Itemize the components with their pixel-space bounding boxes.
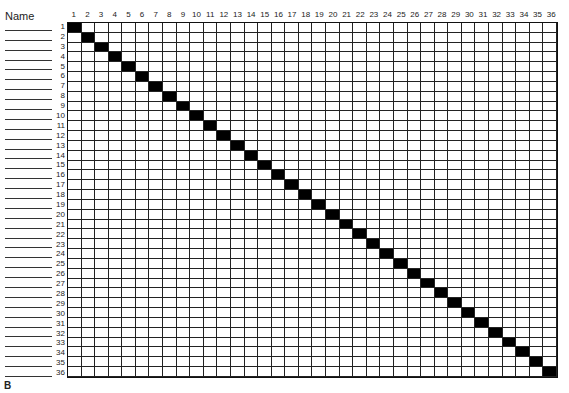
grid-cell[interactable] xyxy=(245,43,259,53)
grid-cell[interactable] xyxy=(462,111,476,121)
grid-cell[interactable] xyxy=(109,62,123,72)
grid-cell[interactable] xyxy=(163,239,177,249)
grid-cell[interactable] xyxy=(204,102,218,112)
grid-cell[interactable] xyxy=(408,33,422,43)
name-entry-line[interactable] xyxy=(5,238,52,239)
grid-cell[interactable] xyxy=(82,121,96,131)
grid-cell[interactable] xyxy=(543,308,557,318)
name-entry-line[interactable] xyxy=(5,109,52,110)
grid-cell[interactable] xyxy=(136,151,150,161)
grid-cell[interactable] xyxy=(475,239,489,249)
grid-cell[interactable] xyxy=(543,62,557,72)
grid-cell[interactable] xyxy=(367,269,381,279)
grid-cell[interactable] xyxy=(421,190,435,200)
grid-cell[interactable] xyxy=(516,170,530,180)
grid-cell[interactable] xyxy=(462,338,476,348)
grid-cell[interactable] xyxy=(177,92,191,102)
grid-cell[interactable] xyxy=(272,249,286,259)
grid-cell[interactable] xyxy=(475,102,489,112)
grid-cell[interactable] xyxy=(136,229,150,239)
grid-cell[interactable] xyxy=(326,239,340,249)
grid-cell[interactable] xyxy=(299,200,313,210)
grid-cell[interactable] xyxy=(299,170,313,180)
grid-cell[interactable] xyxy=(448,279,462,289)
grid-cell[interactable] xyxy=(109,279,123,289)
grid-cell[interactable] xyxy=(258,141,272,151)
grid-cell[interactable] xyxy=(312,259,326,269)
grid-cell[interactable] xyxy=(312,151,326,161)
grid-cell[interactable] xyxy=(503,367,517,377)
grid-cell[interactable] xyxy=(516,72,530,82)
grid-cell[interactable] xyxy=(408,220,422,230)
grid-cell[interactable] xyxy=(109,318,123,328)
grid-cell[interactable] xyxy=(245,239,259,249)
grid-cell[interactable] xyxy=(475,200,489,210)
grid-cell[interactable] xyxy=(149,180,163,190)
grid-cell[interactable] xyxy=(353,161,367,171)
grid-cell[interactable] xyxy=(312,338,326,348)
grid-cell[interactable] xyxy=(109,210,123,220)
grid-cell[interactable] xyxy=(462,180,476,190)
grid-cell[interactable] xyxy=(285,92,299,102)
grid-cell[interactable] xyxy=(340,23,354,33)
name-entry-line[interactable] xyxy=(5,287,52,288)
grid-cell[interactable] xyxy=(163,111,177,121)
grid-cell[interactable] xyxy=(245,308,259,318)
grid-cell[interactable] xyxy=(312,279,326,289)
grid-cell[interactable] xyxy=(353,210,367,220)
grid-cell[interactable] xyxy=(312,180,326,190)
grid-cell[interactable] xyxy=(82,249,96,259)
grid-cell[interactable] xyxy=(285,131,299,141)
grid-cell[interactable] xyxy=(122,121,136,131)
grid-cell[interactable] xyxy=(312,210,326,220)
grid-cell[interactable] xyxy=(530,249,544,259)
grid-cell[interactable] xyxy=(190,249,204,259)
grid-cell[interactable] xyxy=(503,328,517,338)
grid-cell[interactable] xyxy=(353,82,367,92)
grid-cell[interactable] xyxy=(394,111,408,121)
grid-cell[interactable] xyxy=(299,43,313,53)
grid-cell[interactable] xyxy=(503,141,517,151)
grid-cell[interactable] xyxy=(489,288,503,298)
grid-cell[interactable] xyxy=(503,131,517,141)
grid-cell[interactable] xyxy=(190,43,204,53)
grid-cell[interactable] xyxy=(435,190,449,200)
grid-cell[interactable] xyxy=(245,190,259,200)
grid-cell[interactable] xyxy=(149,23,163,33)
grid-cell[interactable] xyxy=(163,180,177,190)
grid-cell[interactable] xyxy=(475,328,489,338)
grid-cell[interactable] xyxy=(503,288,517,298)
grid-cell[interactable] xyxy=(272,111,286,121)
grid-cell[interactable] xyxy=(190,338,204,348)
grid-cell[interactable] xyxy=(204,161,218,171)
grid-cell[interactable] xyxy=(421,298,435,308)
grid-cell[interactable] xyxy=(231,200,245,210)
grid-cell[interactable] xyxy=(68,200,82,210)
grid-cell[interactable] xyxy=(380,269,394,279)
grid-cell[interactable] xyxy=(340,357,354,367)
grid-cell[interactable] xyxy=(231,33,245,43)
grid-cell[interactable] xyxy=(136,161,150,171)
grid-cell[interactable] xyxy=(394,338,408,348)
grid-cell[interactable] xyxy=(435,92,449,102)
grid-cell[interactable] xyxy=(136,92,150,102)
grid-cell[interactable] xyxy=(530,161,544,171)
grid-cell[interactable] xyxy=(299,92,313,102)
grid-cell[interactable] xyxy=(231,170,245,180)
grid-cell[interactable] xyxy=(177,338,191,348)
grid-cell[interactable] xyxy=(109,357,123,367)
grid-cell[interactable] xyxy=(380,43,394,53)
grid-cell[interactable] xyxy=(475,259,489,269)
grid-cell[interactable] xyxy=(543,92,557,102)
grid-cell[interactable] xyxy=(177,239,191,249)
grid-cell[interactable] xyxy=(326,82,340,92)
grid-cell[interactable] xyxy=(408,259,422,269)
grid-cell[interactable] xyxy=(353,347,367,357)
grid-cell[interactable] xyxy=(122,72,136,82)
grid-cell[interactable] xyxy=(353,141,367,151)
grid-cell[interactable] xyxy=(231,269,245,279)
grid-cell[interactable] xyxy=(285,220,299,230)
grid-cell[interactable] xyxy=(68,338,82,348)
grid-cell[interactable] xyxy=(448,121,462,131)
grid-cell[interactable] xyxy=(516,82,530,92)
